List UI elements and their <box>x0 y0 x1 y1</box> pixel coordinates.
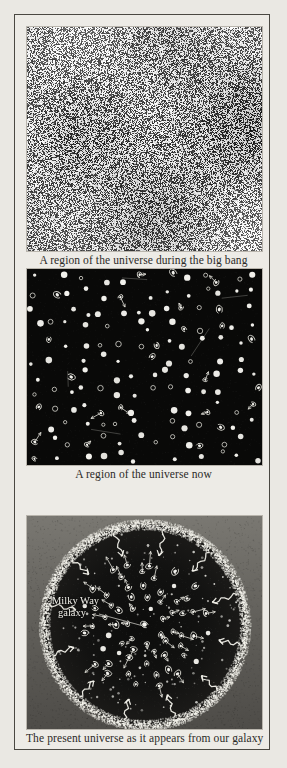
panel-c-caption: The present universe as it appears from … <box>26 730 261 744</box>
panel-b-caption: A region of the universe now <box>26 466 261 480</box>
panel-c-image: Milky Way galaxy c <box>26 515 263 730</box>
panel-a: a A region of the universe during the bi… <box>26 26 261 266</box>
panel-b: b A region of the universe now <box>26 268 261 480</box>
panel-a-image: a <box>26 26 263 252</box>
figure-page: a A region of the universe during the bi… <box>0 0 287 768</box>
panel-b-image: b <box>26 268 263 466</box>
panel-a-caption: A region of the universe during the big … <box>26 252 261 266</box>
universe-now-canvas <box>27 269 262 465</box>
figure-frame: a A region of the universe during the bi… <box>14 14 270 750</box>
big-bang-noise-canvas <box>27 27 262 251</box>
present-universe-canvas <box>27 516 262 729</box>
panel-c: Milky Way galaxy c The present universe … <box>26 515 261 744</box>
